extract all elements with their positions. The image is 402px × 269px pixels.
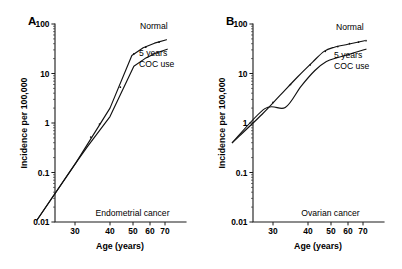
- panel-B-axes: [253, 24, 384, 222]
- series-label-B-coc: 5 years: [334, 50, 362, 60]
- cancer-incidence-figure: 1001010.10.013040506070Normal5 yearsCOC …: [0, 0, 402, 269]
- y-tick-label-A-100: 100: [36, 19, 50, 29]
- data-point: [120, 86, 122, 88]
- y-tick-label-B-100: 100: [234, 19, 248, 29]
- y-tick-label-A-10: 10: [40, 69, 50, 79]
- data-point: [349, 43, 351, 45]
- series-label-B-normal: Normal: [336, 22, 364, 32]
- panel-A: 1001010.10.013040506070Normal5 yearsCOC …: [19, 15, 186, 251]
- x-tick-label-A-50: 50: [128, 226, 138, 236]
- y-tick-label-B-0.01: 0.01: [231, 217, 248, 227]
- panel-B: 1001010.10.013040506070Normal5 yearsCOC …: [217, 15, 384, 251]
- series-label-A-normal: Normal: [140, 21, 168, 31]
- panel-letter-B: B: [226, 15, 234, 27]
- data-point: [337, 46, 339, 48]
- x-tick-label-A-30: 30: [70, 226, 80, 236]
- series-label-A-coc: 5 years: [139, 48, 167, 58]
- x-tick-label-A-40: 40: [105, 226, 115, 236]
- series-label-B-coc-line2: COC use: [334, 61, 370, 71]
- y-tick-label-B-10: 10: [238, 69, 248, 79]
- figure-container: 1001010.10.013040506070Normal5 yearsCOC …: [0, 0, 402, 269]
- y-axis-title-A: Incidence per 100,000: [19, 77, 29, 168]
- x-tick-label-B-60: 60: [343, 226, 353, 236]
- data-point: [309, 64, 311, 66]
- data-point: [365, 40, 367, 42]
- x-tick-label-B-30: 30: [268, 226, 278, 236]
- data-point: [90, 136, 92, 138]
- y-tick-label-A-1: 1: [45, 118, 50, 128]
- data-point: [99, 123, 101, 125]
- x-tick-label-A-60: 60: [145, 226, 155, 236]
- series-label-A-coc-line2: COC use: [139, 59, 175, 69]
- y-axis-title-B: Incidence per 100,000: [217, 77, 227, 168]
- data-point: [158, 41, 160, 43]
- panels-root: 1001010.10.013040506070Normal5 yearsCOC …: [19, 15, 384, 251]
- data-point: [290, 84, 292, 86]
- panel-caption-B: Ovarian cancer: [301, 208, 359, 218]
- y-tick-label-A-0.01: 0.01: [33, 217, 50, 227]
- data-point: [324, 51, 326, 53]
- x-axis-title-B: Age (years): [294, 241, 342, 251]
- data-point: [358, 41, 360, 43]
- x-axis-title-A: Age (years): [96, 241, 144, 251]
- curve-A-coc: [37, 49, 167, 220]
- panel-letter-A: A: [28, 15, 36, 27]
- x-tick-label-B-70: 70: [358, 226, 368, 236]
- data-point: [272, 102, 274, 104]
- data-point: [133, 53, 135, 55]
- y-tick-label-B-0.1: 0.1: [236, 168, 248, 178]
- x-tick-label-B-40: 40: [303, 226, 313, 236]
- panel-caption-A: Endometrial cancer: [95, 208, 169, 218]
- y-tick-label-A-0.1: 0.1: [38, 168, 50, 178]
- x-tick-label-B-50: 50: [326, 226, 336, 236]
- x-tick-label-A-70: 70: [160, 226, 170, 236]
